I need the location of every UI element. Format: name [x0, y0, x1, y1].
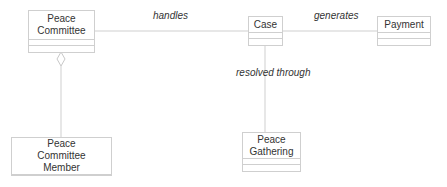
class-name: Case — [249, 17, 282, 33]
class-operations — [378, 39, 430, 45]
class-peace-gathering[interactable]: Peace Gathering — [242, 132, 301, 172]
label-resolved-through: resolved through — [236, 67, 311, 78]
class-name: Peace Gathering — [243, 133, 300, 159]
class-case[interactable]: Case — [248, 16, 283, 46]
class-name: Peace Committee Member — [12, 138, 111, 175]
class-name: Peace Committee — [35, 11, 89, 39]
label-handles: handles — [153, 10, 188, 21]
class-attributes — [12, 175, 111, 176]
class-name: Payment — [378, 17, 430, 33]
class-peace-committee[interactable]: Peace Committee — [28, 10, 95, 53]
aggregation-diamond-icon — [57, 52, 65, 66]
class-operations — [249, 39, 282, 45]
class-operations — [29, 46, 94, 52]
class-operations — [243, 165, 300, 171]
label-generates: generates — [314, 10, 358, 21]
class-payment[interactable]: Payment — [377, 16, 431, 46]
class-peace-committee-member[interactable]: Peace Committee Member — [11, 137, 112, 176]
